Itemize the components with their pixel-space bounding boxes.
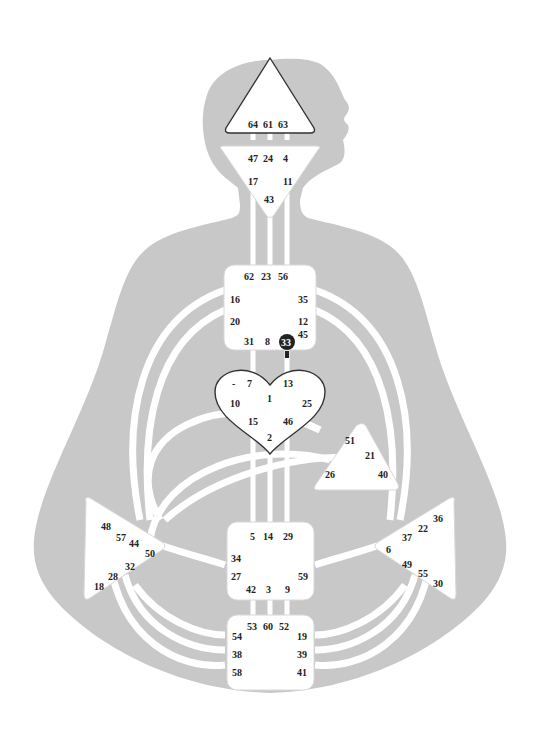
gate-49: 49 xyxy=(402,559,412,570)
gate-13: 13 xyxy=(283,378,293,389)
gate-50: 50 xyxy=(145,548,155,559)
gate-52: 52 xyxy=(279,621,289,632)
gate-53: 53 xyxy=(247,621,257,632)
gate-19: 19 xyxy=(297,631,307,642)
gate-30: 30 xyxy=(433,578,443,589)
gate-34: 34 xyxy=(231,553,241,564)
gate-63: 63 xyxy=(278,119,288,130)
gate-58: 58 xyxy=(232,667,242,678)
gate-38: 38 xyxy=(232,649,242,660)
throat-center: 62 23 56 16 35 20 12 31 8 33 45 xyxy=(224,265,316,358)
gate-41: 41 xyxy=(297,667,307,678)
gate-11: 11 xyxy=(283,176,292,187)
gate-26: 26 xyxy=(325,469,335,480)
gate-59: 59 xyxy=(298,571,308,582)
gate-57: 57 xyxy=(116,532,126,543)
gate-60: 60 xyxy=(263,621,273,632)
gate-4: 4 xyxy=(283,153,288,164)
gate-29: 29 xyxy=(283,531,293,542)
gate-5: 5 xyxy=(250,531,255,542)
gate-43: 43 xyxy=(264,194,274,205)
gate-47: 47 xyxy=(248,153,258,164)
gate-44: 44 xyxy=(129,538,139,549)
gate-31: 31 xyxy=(244,336,254,347)
gate-10: 10 xyxy=(230,398,240,409)
gate-1: 1 xyxy=(267,393,272,404)
gate-54: 54 xyxy=(232,631,242,642)
gate-21: 21 xyxy=(365,450,375,461)
gate-56: 56 xyxy=(278,271,288,282)
gate-27: 27 xyxy=(231,571,241,582)
gate-37: 37 xyxy=(402,532,412,543)
gate-16: 16 xyxy=(230,294,240,305)
gate-35: 35 xyxy=(298,294,308,305)
gate-15: 15 xyxy=(248,416,258,427)
gate-64: 64 xyxy=(248,119,258,130)
gate-9: 9 xyxy=(285,584,290,595)
gate-55: 55 xyxy=(418,568,428,579)
gate-46: 46 xyxy=(283,416,293,427)
gate-36: 36 xyxy=(433,513,443,524)
gate-45: 45 xyxy=(298,329,308,340)
gate-40: 40 xyxy=(378,469,388,480)
gate-8: 8 xyxy=(265,336,270,347)
gate-20: 20 xyxy=(230,316,240,327)
root-center: 53 60 52 54 19 38 39 58 41 xyxy=(227,615,314,690)
gate-51: 51 xyxy=(345,435,355,446)
gate-12: 12 xyxy=(298,316,308,327)
gate-17: 17 xyxy=(248,176,258,187)
sacral-center: 5 14 29 34 27 59 42 3 9 xyxy=(227,522,314,600)
gate-23: 23 xyxy=(261,271,271,282)
gate-24: 24 xyxy=(263,153,273,164)
gate-61: 61 xyxy=(263,119,273,130)
gate-6: 6 xyxy=(386,544,391,555)
gate-18: 18 xyxy=(94,581,104,592)
gate-42: 42 xyxy=(246,584,256,595)
gate-62: 62 xyxy=(244,271,254,282)
gate-48: 48 xyxy=(101,521,111,532)
gate-28: 28 xyxy=(108,571,118,582)
gate-14: 14 xyxy=(263,531,273,542)
gate-25: 25 xyxy=(302,398,312,409)
gate-3: 3 xyxy=(266,584,271,595)
gate-32: 32 xyxy=(125,561,135,572)
gate-2: 2 xyxy=(267,432,272,443)
bodygraph-diagram: 64 61 63 47 24 4 17 11 43 62 23 56 16 35… xyxy=(0,0,540,753)
gate-7: 7 xyxy=(247,378,252,389)
gate-33: 33 xyxy=(281,337,291,348)
bodygraph-svg: 64 61 63 47 24 4 17 11 43 62 23 56 16 35… xyxy=(0,0,540,753)
gate-33-channel-stub xyxy=(285,351,289,358)
gate-22: 22 xyxy=(418,523,428,534)
gate-39: 39 xyxy=(297,649,307,660)
gate-dash: - xyxy=(232,378,235,389)
